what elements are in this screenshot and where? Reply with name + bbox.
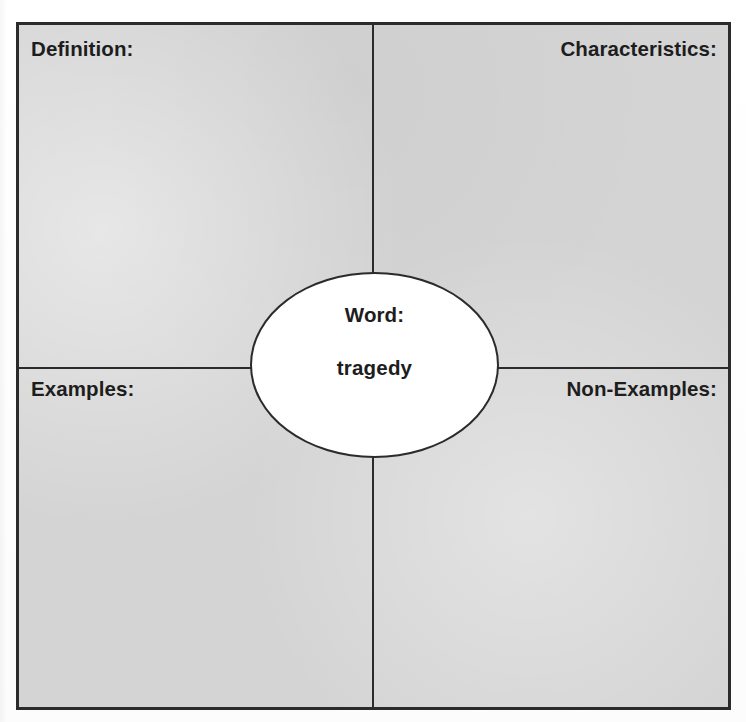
quadrant-label-non-examples: Non-Examples: bbox=[566, 377, 717, 401]
center-word-oval: Word: tragedy bbox=[250, 272, 499, 458]
quadrant-label-examples: Examples: bbox=[31, 377, 134, 401]
word-label: Word: bbox=[345, 303, 404, 327]
quadrant-label-characteristics: Characteristics: bbox=[560, 37, 717, 61]
quadrant-label-definition: Definition: bbox=[31, 37, 133, 61]
word-value: tragedy bbox=[337, 356, 412, 380]
frayer-model-chart: Definition: Characteristics: Examples: N… bbox=[16, 22, 731, 710]
